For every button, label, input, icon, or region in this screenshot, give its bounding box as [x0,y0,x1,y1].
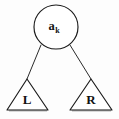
root-node-label-subscript: k [55,25,60,34]
right-edge [70,45,91,79]
tree-diagram-canvas: ak L R [0,0,119,119]
right-subtree-label: R [86,92,96,107]
binary-tree-figure: ak L R [0,0,119,119]
left-edge [27,45,41,79]
left-subtree-label: L [23,92,32,107]
